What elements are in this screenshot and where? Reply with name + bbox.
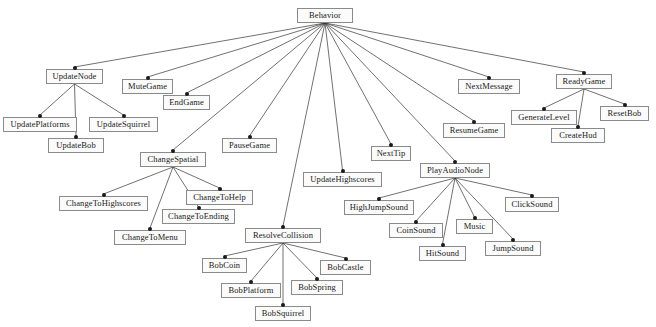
node-resumegame[interactable]: ResumeGame: [443, 123, 505, 138]
node-label: ResetBob: [608, 109, 642, 118]
node-label: ChangeToEnding: [168, 212, 229, 221]
edge-behavior-to-playaudionode: [325, 23, 455, 161]
node-bobsquirrel[interactable]: BobSquirrel: [255, 306, 311, 321]
edge-resolvecollision-to-bobcastle: [283, 243, 346, 258]
node-changetohighscores[interactable]: ChangeToHighscores: [59, 196, 148, 211]
edge-playaudionode-to-highjumpsound: [379, 178, 455, 198]
node-label: HitSound: [426, 249, 459, 258]
node-label: PlayAudioNode: [427, 166, 483, 175]
node-jumpsound[interactable]: JumpSound: [485, 241, 541, 256]
diagram-canvas: BehaviorUpdateNodeMuteGameEndGameUpdateP…: [0, 0, 656, 327]
edge-updatenode-to-updateplatforms: [40, 84, 75, 115]
edge-playaudionode-to-clicksound: [455, 178, 532, 195]
node-updatehighscores[interactable]: UpdateHighscores: [303, 172, 382, 187]
node-label: ChangeSpatial: [148, 155, 199, 164]
edge-resolvecollision-to-bobplatform: [251, 243, 283, 281]
node-behavior[interactable]: Behavior: [297, 8, 353, 23]
node-label: ReadyGame: [563, 77, 606, 86]
edge-resolvecollision-to-bobspring: [283, 243, 317, 278]
node-label: MuteGame: [128, 82, 167, 91]
edge-readygame-to-resetbob: [584, 89, 625, 104]
node-updatesquirrel[interactable]: UpdateSquirrel: [89, 117, 158, 132]
node-label: ResumeGame: [450, 126, 499, 135]
node-label: BobCastle: [327, 263, 363, 272]
node-updateplatforms[interactable]: UpdatePlatforms: [3, 117, 77, 132]
edge-behavior-to-nexttip: [325, 23, 391, 144]
node-label: BobPlatform: [228, 286, 273, 295]
node-generatelevel[interactable]: GenerateLevel: [511, 110, 577, 125]
node-clicksound[interactable]: ClickSound: [505, 197, 559, 212]
node-playaudionode[interactable]: PlayAudioNode: [420, 163, 490, 178]
node-label: JumpSound: [492, 244, 533, 253]
edge-behavior-to-changespatial: [173, 23, 325, 150]
edge-behavior-to-updatehighscores: [325, 23, 343, 170]
edge-layer: [0, 0, 656, 327]
edge-playaudionode-to-hitsound: [443, 178, 456, 244]
node-label: UpdateHighscores: [310, 175, 374, 184]
node-label: HighJumpSound: [350, 203, 408, 212]
node-label: Behavior: [309, 11, 341, 20]
edge-behavior-to-resumegame: [325, 23, 474, 121]
edge-behavior-to-readygame: [325, 23, 584, 72]
edge-changespatial-to-changetohighscores: [104, 167, 174, 194]
node-label: Music: [464, 222, 486, 231]
node-nextmessage[interactable]: NextMessage: [458, 79, 520, 94]
node-changetomenu[interactable]: ChangeToMenu: [114, 230, 186, 245]
node-label: UpdatePlatforms: [10, 120, 69, 129]
node-label: CreateHud: [559, 131, 597, 140]
node-label: BobSpring: [298, 283, 336, 292]
edge-resolvecollision-to-bobcoin: [225, 243, 284, 256]
node-label: BobCoin: [209, 261, 240, 270]
edge-behavior-to-endgame: [187, 23, 326, 93]
node-label: NextMessage: [465, 82, 512, 91]
edge-playaudionode-to-coinsound: [416, 178, 455, 221]
edge-behavior-to-mutegame: [148, 23, 326, 77]
node-pausegame[interactable]: PauseGame: [222, 138, 277, 153]
node-changespatial[interactable]: ChangeSpatial: [140, 152, 206, 167]
node-label: ResolveCollision: [253, 231, 313, 240]
node-bobspring[interactable]: BobSpring: [291, 280, 343, 295]
node-label: ChangeToHelp: [193, 193, 246, 202]
node-label: PauseGame: [229, 141, 270, 150]
edge-playaudionode-to-music: [455, 178, 475, 217]
node-hitsound[interactable]: HitSound: [419, 246, 466, 261]
node-resolvecollision[interactable]: ResolveCollision: [245, 228, 321, 243]
edge-behavior-to-nextmessage: [325, 23, 489, 77]
node-label: NextTip: [377, 149, 406, 158]
node-mutegame[interactable]: MuteGame: [122, 79, 173, 94]
node-createhud[interactable]: CreateHud: [551, 128, 605, 143]
edge-behavior-to-resolvecollision: [283, 23, 325, 226]
edge-updatenode-to-updatesquirrel: [75, 84, 124, 115]
node-label: CoinSound: [396, 226, 435, 235]
edge-readygame-to-generatelevel: [544, 89, 584, 108]
node-bobcoin[interactable]: BobCoin: [202, 258, 247, 273]
node-resetbob[interactable]: ResetBob: [600, 106, 649, 121]
node-label: ChangeToHighscores: [66, 199, 141, 208]
node-label: UpdateBob: [56, 141, 96, 150]
node-label: ClickSound: [511, 200, 552, 209]
edge-behavior-to-updatenode: [75, 23, 326, 67]
node-label: EndGame: [169, 98, 204, 107]
node-label: UpdateNode: [53, 72, 97, 81]
edge-readygame-to-createhud: [578, 89, 584, 126]
node-label: GenerateLevel: [518, 113, 569, 122]
node-bobplatform[interactable]: BobPlatform: [221, 283, 281, 298]
node-label: BobSquirrel: [262, 309, 305, 318]
node-highjumpsound[interactable]: HighJumpSound: [344, 200, 414, 215]
node-changetohelp[interactable]: ChangeToHelp: [186, 190, 253, 205]
node-endgame[interactable]: EndGame: [163, 95, 210, 110]
edge-behavior-to-pausegame: [250, 23, 326, 136]
node-nexttip[interactable]: NextTip: [371, 146, 411, 161]
node-music[interactable]: Music: [456, 219, 493, 234]
node-bobcastle[interactable]: BobCastle: [320, 260, 371, 275]
node-label: ChangeToMenu: [122, 233, 178, 242]
node-updatenode[interactable]: UpdateNode: [46, 69, 103, 84]
node-label: UpdateSquirrel: [97, 120, 150, 129]
edge-changespatial-to-changetohelp: [173, 167, 220, 188]
node-updatebob[interactable]: UpdateBob: [48, 138, 104, 153]
node-coinsound[interactable]: CoinSound: [389, 223, 443, 238]
node-changetoending[interactable]: ChangeToEnding: [162, 209, 235, 224]
node-readygame[interactable]: ReadyGame: [556, 74, 612, 89]
